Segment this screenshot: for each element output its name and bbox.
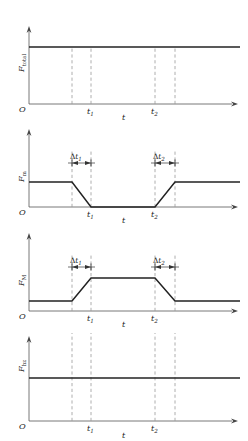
panel-total-x-label: t (122, 112, 126, 122)
panel-m-tick-t2: t2 (151, 209, 158, 220)
panel-M-delta-t2-label: Δt2 (153, 256, 165, 266)
panel-M-curve (29, 278, 240, 301)
panel-hz-y-label: Fhz (16, 360, 27, 373)
svg-text:Fhz: Fhz (16, 360, 27, 373)
svg-text:Ftotal: Ftotal (16, 54, 27, 73)
panel-m-origin: O (19, 207, 26, 217)
svg-text:FM: FM (16, 274, 27, 287)
panel-M-x-arrow (231, 309, 238, 314)
panel-total: Ftotal O t1 t2 t (16, 26, 240, 122)
panel-m-x-label: t (122, 215, 126, 225)
panel-hz: Fhz O t1 t2 t (16, 333, 240, 440)
panel-m: Fm Δt1 Δt2 O t1 (16, 129, 240, 225)
force-time-diagram: Ftotal O t1 t2 t Fm (0, 0, 248, 441)
panel-M-tick-t1: t1 (87, 313, 94, 324)
panel-total-y-sub: total (21, 54, 27, 67)
panel-m-delta-t2-label: Δt2 (153, 152, 165, 162)
panel-total-y-label: Ftotal (16, 54, 27, 73)
svg-text:Fm: Fm (16, 171, 27, 183)
panel-M-y-sub: M (21, 274, 27, 280)
panel-M-origin: O (19, 311, 26, 321)
panel-total-origin: O (19, 104, 26, 114)
panel-M-delta-t1-label: Δt1 (70, 256, 82, 266)
panel-hz-x-arrow (231, 419, 238, 424)
panel-hz-tick-t1: t1 (87, 423, 94, 434)
panel-M-x-label: t (122, 319, 126, 329)
panel-m-delta-t1-label: Δt1 (70, 152, 82, 162)
panel-hz-y-sub: hz (21, 360, 27, 366)
panel-total-x-arrow (231, 102, 238, 107)
panel-m-y-sub: m (21, 171, 27, 176)
panel-total-tick-t1: t1 (87, 106, 94, 117)
panel-M: FM Δt1 Δt2 O t1 t2 (16, 233, 240, 329)
panel-hz-tick-t2: t2 (151, 423, 158, 434)
panel-M-y-label: FM (16, 274, 27, 287)
panel-m-tick-t1: t1 (87, 209, 94, 220)
panel-hz-x-label: t (122, 430, 126, 440)
panel-m-y-label: Fm (16, 171, 27, 183)
panel-M-tick-t2: t2 (151, 313, 158, 324)
panel-m-x-arrow (231, 205, 238, 210)
panel-hz-origin: O (19, 421, 26, 431)
panel-total-tick-t2: t2 (151, 106, 158, 117)
panel-m-curve (29, 182, 240, 207)
